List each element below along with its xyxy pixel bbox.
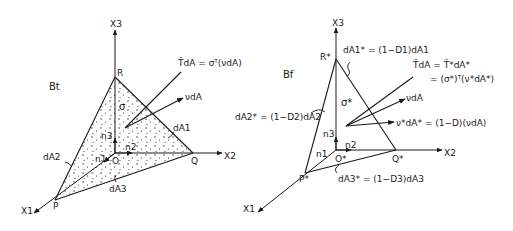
dA3-star-label: dA3* = (1−D3)dA3 [338,174,424,184]
vertex-o-star: O* [335,154,347,164]
n1-label: n1 [95,154,106,164]
dA1-star-label: dA1* = (1−D1)dA1 [343,45,429,55]
n3-label: n3 [101,131,112,141]
stress-label: σ [119,101,126,112]
stress-label-star: σ* [341,97,352,108]
n2-label-star: n2 [345,140,356,150]
dA2-label: dA2 [43,152,61,162]
traction-label-star-line2: = (σ*)ᵀ(ν*dA*) [430,74,494,84]
x3-label: X3 [110,19,122,29]
n1-label-star: n1 [316,149,327,159]
dA3-star-leader [335,165,339,173]
traction-label: T̃dA = σᵀ(νdA) [177,57,242,68]
effective-normal-label: ν*dA* = (1−D)(νdA) [396,118,486,128]
vertex-q-star: Q* [392,154,404,164]
vertex-q: Q [191,156,198,166]
x3-label-star: X3 [332,18,344,28]
x2-label: X2 [224,151,236,161]
x1-label-star: X1 [243,204,255,214]
n2-label: n2 [125,142,136,152]
right-panel-fictitious-configuration: Bf X3 X2 X1 R* Q* P* O* σ* n3 n2 n1 dA1*… [235,18,494,214]
config-label-bt: Bt [49,81,60,92]
traction-label-star-line1: T̃dA = T̃*dA* [412,59,470,70]
dA2-star-label: dA2* = (1−D2)dA2 [235,112,321,122]
vertex-o: O [112,156,119,166]
vertex-p: P [53,201,59,211]
vertex-r-star: R* [320,52,331,62]
x1-axis-star [258,150,336,212]
x2-label-star: X2 [444,148,456,158]
vertex-p-star: P* [299,174,309,184]
normal-label: νdA [185,92,203,102]
dA1-star-leader [347,62,350,77]
left-panel-current-configuration: Bt X3 X2 X1 R Q P O σ n3 n2 n1 dA1 dA2 d… [21,19,242,216]
x1-label: X1 [21,206,33,216]
dA1-label: dA1 [173,123,191,133]
vertex-r: R [117,68,123,78]
config-label-bf: Bf [283,69,294,80]
normal-label-star: νdA [406,93,424,103]
dA3-label: dA3 [109,184,127,194]
damage-tetrahedron-diagram: Bt X3 X2 X1 R Q P O σ n3 n2 n1 dA1 dA2 d… [0,0,513,231]
n3-label-star: n3 [323,129,334,139]
